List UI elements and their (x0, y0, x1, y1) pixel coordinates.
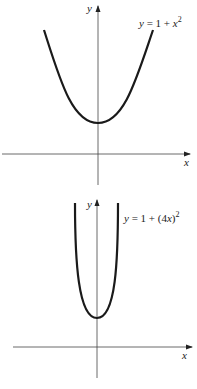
top-parabola-curve (44, 30, 153, 123)
bottom-x-axis-label: x (181, 349, 187, 361)
bottom-graph: y x y = 1 + (4x)2 (13, 198, 192, 378)
bottom-parabola-curve (75, 203, 118, 318)
figure: y x y = 1 + x2 y x y = 1 + (4x)2 (0, 0, 197, 389)
top-graph: y x y = 1 + x2 (2, 2, 190, 185)
bottom-y-axis-label: y (86, 198, 92, 210)
bottom-equation-label: y = 1 + (4x)2 (123, 210, 180, 225)
top-x-axis-label: x (183, 156, 189, 168)
top-y-axis-label: y (86, 2, 92, 14)
top-equation-label: y = 1 + x2 (138, 15, 182, 29)
